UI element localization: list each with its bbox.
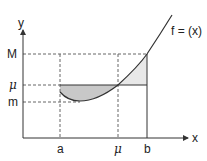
y-tick-M: M: [7, 47, 17, 61]
x-tick-a: a: [57, 142, 64, 156]
x-tick-b: b: [144, 142, 151, 156]
x-tick-mu: μ: [114, 142, 122, 156]
mean-value-diagram: y x M μ m a μ b f = (x): [0, 0, 207, 161]
y-axis-label: y: [18, 16, 24, 30]
x-axis-label: x: [192, 131, 198, 145]
y-tick-m: m: [8, 95, 18, 109]
y-tick-mu: μ: [9, 78, 17, 92]
curve-label: f = (x): [171, 24, 202, 38]
